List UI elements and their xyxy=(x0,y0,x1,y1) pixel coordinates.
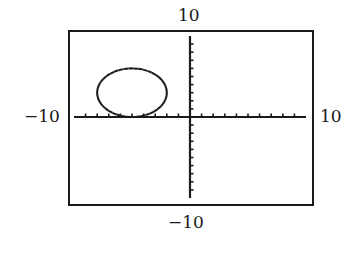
curve-segment xyxy=(165,84,166,86)
curve-segment xyxy=(101,80,102,82)
xmin-label: −10 xyxy=(24,108,60,125)
curve-segment xyxy=(99,83,100,85)
curve-segment xyxy=(118,115,121,116)
curve-segment xyxy=(160,78,162,80)
curve-segment xyxy=(165,98,166,100)
curve-segment xyxy=(120,69,123,70)
curve-segment xyxy=(100,103,101,105)
curve-segment xyxy=(148,71,150,72)
curve-segment xyxy=(161,104,162,106)
curve-segment xyxy=(107,74,109,75)
axes xyxy=(74,36,306,198)
curve-segment xyxy=(104,77,106,78)
curve-segment xyxy=(158,107,160,108)
curve-segment xyxy=(106,109,108,110)
curve-segment xyxy=(111,72,113,73)
curve-segment xyxy=(144,70,147,71)
curve-segment xyxy=(142,115,145,116)
curve-segment xyxy=(109,111,111,112)
ymax-label: 10 xyxy=(178,7,200,24)
ymin-label: −10 xyxy=(168,214,204,231)
circle-curve xyxy=(97,68,167,117)
curve-segment xyxy=(98,86,99,88)
curve-segment xyxy=(99,100,100,102)
curve-segment xyxy=(103,106,105,108)
xmax-label: 10 xyxy=(320,108,342,125)
curve-segment xyxy=(164,101,165,103)
curve-segment xyxy=(155,110,157,111)
curve-segment xyxy=(153,73,155,74)
curve-segment xyxy=(151,112,153,113)
curve-segment xyxy=(146,114,148,115)
curve-segment xyxy=(113,113,115,114)
curve-segment xyxy=(115,71,117,72)
curve-segment xyxy=(162,81,163,83)
curve-segment xyxy=(156,75,158,76)
